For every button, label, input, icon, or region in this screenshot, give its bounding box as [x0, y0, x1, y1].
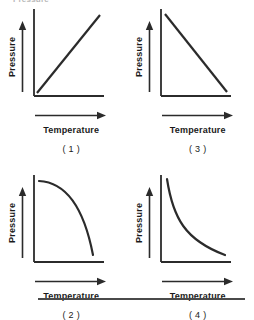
plot-area-4: Pressure — [127, 172, 254, 272]
axes-2 — [30, 172, 106, 272]
y-axis-label-1: Pressure — [8, 20, 17, 94]
up-arrow-icon — [145, 186, 154, 260]
x-axis-label-1: Temperature — [0, 125, 127, 135]
figure-caption-2: ( 2 ) — [0, 310, 127, 320]
axes-4 — [157, 172, 233, 272]
figure-caption-4: ( 4 ) — [127, 310, 254, 320]
figure-row-top: Pressure Temperature ( 1 ) — [0, 6, 253, 154]
figure-1: Pressure Temperature ( 1 ) — [0, 6, 127, 154]
plot-area-1: Pressure — [0, 6, 127, 106]
curve-1 — [37, 15, 100, 93]
right-arrow-icon — [34, 277, 108, 286]
curve-4 — [167, 179, 225, 255]
up-arrow-icon — [18, 186, 27, 260]
right-arrow-icon — [34, 111, 108, 120]
y-axis-label-2: Pressure — [8, 186, 17, 260]
figure-caption-1: ( 1 ) — [0, 144, 127, 154]
plot-area-2: Pressure — [0, 172, 127, 272]
clipped-top-text: Pressure — [13, 0, 49, 4]
x-axis-label-3: Temperature — [127, 125, 254, 135]
figure-3: Pressure Temperature ( 3 ) — [127, 6, 254, 154]
axes-1 — [30, 6, 106, 106]
axes-3 — [157, 6, 233, 106]
y-axis-label-4: Pressure — [135, 186, 144, 260]
figure-grid: Pressure Temperature ( 1 ) — [0, 6, 253, 320]
right-arrow-icon — [161, 111, 235, 120]
y-axis-label-3: Pressure — [135, 20, 144, 94]
plot-area-3: Pressure — [127, 6, 254, 106]
up-arrow-icon — [145, 20, 154, 94]
row-spacer — [0, 154, 253, 172]
figure-caption-3: ( 3 ) — [127, 144, 254, 154]
curve-3 — [165, 14, 227, 92]
bottom-divider-rule — [38, 298, 245, 300]
right-arrow-icon — [161, 277, 235, 286]
curve-2 — [39, 181, 93, 255]
up-arrow-icon — [18, 20, 27, 94]
